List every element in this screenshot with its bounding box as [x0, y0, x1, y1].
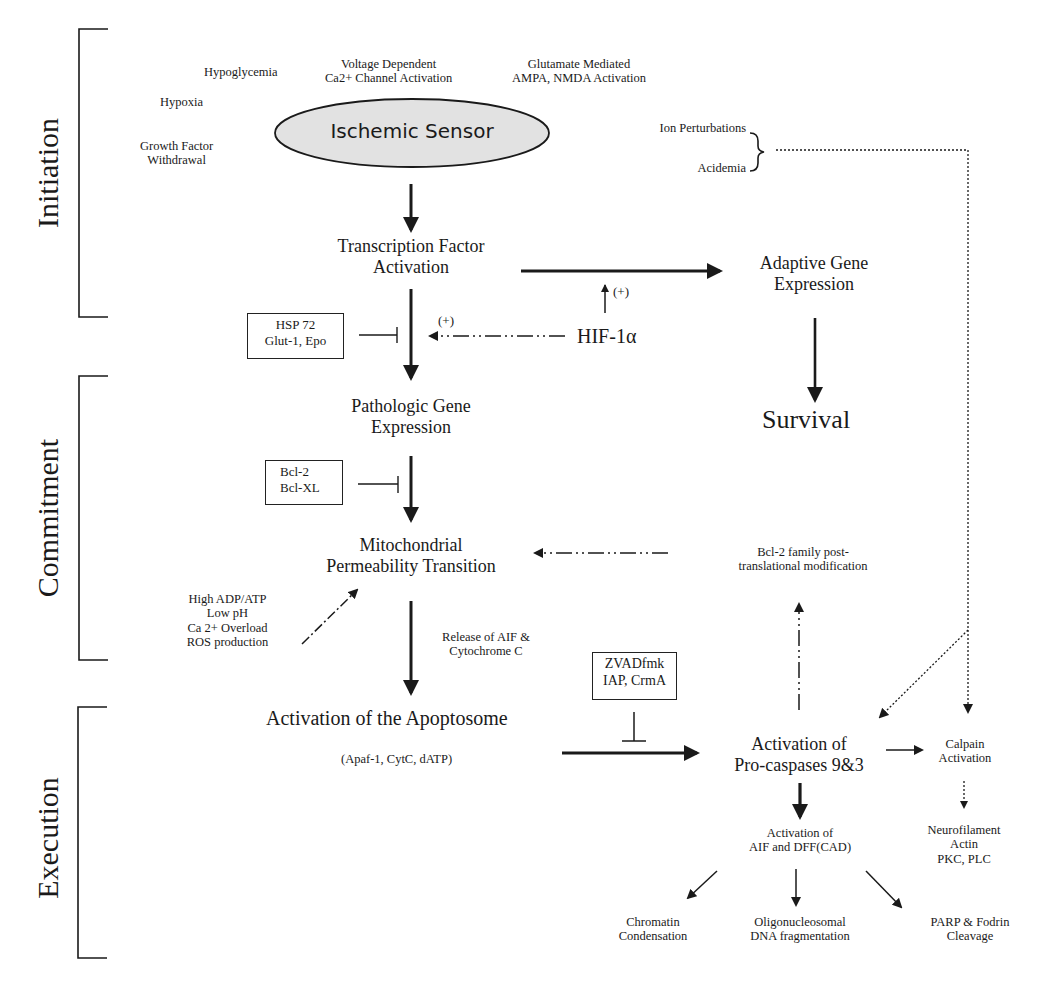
- bracket-commitment: [79, 376, 108, 660]
- stimulus-glutamate: Glutamate Mediated AMPA, NMDA Activation: [512, 57, 646, 86]
- inhibitor-box-hsp: HSP 72 Glut-1, Epo: [247, 313, 344, 359]
- curly-brace: [750, 133, 764, 171]
- node-pathologic-gene: Pathologic Gene Expression: [311, 396, 511, 437]
- node-apoptosome: Activation of the Apoptosome: [266, 707, 508, 730]
- stimulus-hypoxia: Hypoxia: [160, 95, 203, 109]
- node-aif-dff: Activation of AIF and DFF(CAD): [730, 826, 870, 855]
- ischemic-sensor: Ischemic Sensor: [290, 119, 534, 143]
- node-transcription-factor: Transcription Factor Activation: [311, 236, 511, 277]
- plus-label-upper: (+): [613, 285, 629, 300]
- bracket-initiation: [79, 29, 108, 317]
- arrow-to-parp: [866, 871, 901, 907]
- inhibitor-box-bcl: Bcl-2 Bcl-XL: [265, 460, 343, 505]
- node-survival: Survival: [762, 405, 850, 435]
- node-procaspases: Activation of Pro-caspases 9&3: [724, 734, 874, 775]
- phase-execution: Execution: [30, 688, 66, 984]
- node-adaptive-gene: Adaptive Gene Expression: [724, 253, 904, 294]
- inhibit-hsp: [359, 327, 397, 343]
- inhibit-zvad: [622, 712, 646, 741]
- phase-initiation: Initiation: [30, 23, 66, 323]
- ion-perturbations: Ion Perturbations: [620, 121, 746, 135]
- stimulus-growth-factor: Growth Factor Withdrawal: [140, 139, 213, 168]
- dotted-to-procaspases: [880, 630, 968, 717]
- arrow-triggers-to-mito: [302, 590, 357, 644]
- plus-label-left: (+): [438, 314, 454, 329]
- stimulus-hypoglycemia: Hypoglycemia: [204, 65, 278, 79]
- outcome-dna-fragmentation: Oligonucleosomal DNA fragmentation: [730, 915, 870, 944]
- node-hif-1a: HIF-1α: [577, 325, 636, 348]
- outcome-chromatin: Chromatin Condensation: [598, 915, 708, 944]
- inhibitor-box-zvad: ZVADfmk IAP, CrmA: [592, 652, 677, 700]
- acidemia: Acidemia: [620, 161, 746, 175]
- stimulus-voltage-dependent: Voltage Dependent Ca2+ Channel Activatio…: [325, 57, 452, 86]
- bracket-execution: [78, 707, 107, 958]
- release-aif-label: Release of AIF & Cytochrome C: [426, 630, 546, 659]
- phase-commitment: Commitment: [30, 368, 66, 668]
- node-calpain: Calpain Activation: [925, 737, 1005, 766]
- node-mitochondrial-transition: Mitochondrial Permeability Transition: [296, 535, 526, 576]
- outcome-parp-fodrin: PARP & Fodrin Cleavage: [910, 915, 1030, 944]
- apoptosome-components: (Apaf-1, CytC, dATP): [341, 752, 452, 766]
- mito-triggers: High ADP/ATP Low pH Ca 2+ Overload ROS p…: [170, 592, 285, 650]
- inhibit-bcl: [358, 476, 398, 493]
- node-bcl2-family: Bcl-2 family post- translational modific…: [713, 545, 893, 574]
- node-neurofilament: Neurofilament Actin PKC, PLC: [914, 823, 1014, 866]
- arrow-to-chromatin: [688, 871, 717, 898]
